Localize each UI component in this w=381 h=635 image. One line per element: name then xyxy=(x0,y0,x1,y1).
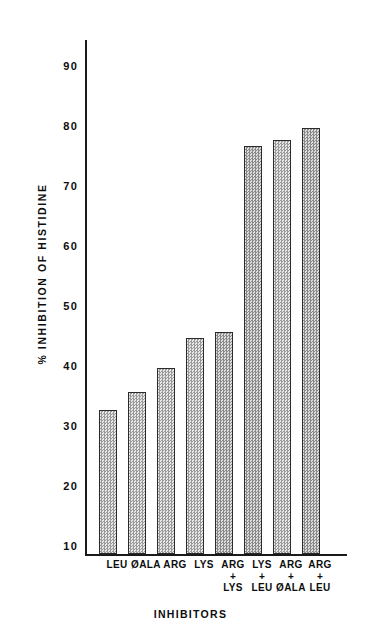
bar xyxy=(99,410,117,554)
bar xyxy=(128,392,146,554)
y-axis-tick-label: 70 xyxy=(63,180,78,192)
bar xyxy=(302,128,320,554)
x-label-line2: + xyxy=(297,571,343,583)
x-axis-line xyxy=(85,554,347,556)
y-axis-tick-label: 20 xyxy=(63,480,78,492)
bar xyxy=(186,338,204,554)
x-label-line1: ARG xyxy=(308,559,331,570)
x-axis-tick-group: LEUØALAARGLYSARG+LYSLYS+LEUARG+ØALAARG+L… xyxy=(85,559,347,609)
x-axis-tick-label: ARG+LEU xyxy=(297,559,343,594)
y-axis-tick-label: 60 xyxy=(63,240,78,252)
y-axis-tick-label: 30 xyxy=(63,420,78,432)
y-axis-tick-label: 80 xyxy=(63,120,78,132)
x-label-line3: LEU xyxy=(297,582,343,594)
y-axis-tick-label: 90 xyxy=(63,60,78,72)
bar xyxy=(215,332,233,554)
bar xyxy=(157,368,175,554)
bar xyxy=(244,146,262,554)
y-axis-tick-label: 10 xyxy=(63,540,78,552)
y-axis-tick-label: 50 xyxy=(63,300,78,312)
bar-group xyxy=(85,40,347,554)
y-axis-title: % INHIBITION OF HISTIDINE xyxy=(36,144,48,404)
y-axis-tick-label: 40 xyxy=(63,360,78,372)
plot-area: 102030405060708090 xyxy=(85,40,347,556)
bar xyxy=(273,140,291,554)
bar-chart-figure: % INHIBITION OF HISTIDINE 10203040506070… xyxy=(0,0,381,635)
x-axis-title: INHIBITORS xyxy=(0,608,381,620)
